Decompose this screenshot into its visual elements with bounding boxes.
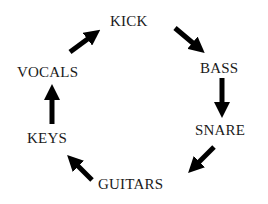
arrows-layer	[0, 0, 268, 204]
arrow-vocals-to-kick-icon	[70, 38, 89, 52]
arrow-snare-to-guitars-icon	[198, 147, 214, 163]
arrow-guitars-to-keys-icon	[77, 165, 92, 180]
mix-order-cycle-diagram: KICK BASS SNARE GUITARS KEYS VOCALS	[0, 0, 268, 204]
arrow-kick-to-bass-icon	[175, 28, 194, 44]
